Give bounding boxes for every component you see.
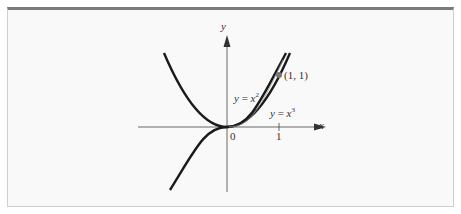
label-x-squared-eq: = — [239, 92, 251, 104]
y-axis-arrow-icon — [224, 35, 231, 47]
intersection-point — [276, 72, 282, 78]
label-x-cubed: y = x3 — [270, 106, 295, 119]
graph-svg — [0, 0, 461, 214]
x-axis-label: x — [319, 119, 324, 131]
y-axis-label: y — [221, 20, 226, 32]
label-x-cubed-eq: = — [275, 107, 287, 119]
x-tick-label: 1 — [276, 130, 282, 142]
point-label: (1, 1) — [284, 69, 308, 81]
label-x-squared: y = x2 — [234, 91, 259, 104]
curve-x-cubed — [170, 53, 286, 190]
label-x-cubed-exp: 3 — [292, 106, 296, 114]
label-x-squared-exp: 2 — [256, 91, 260, 99]
origin-label: 0 — [230, 130, 236, 142]
